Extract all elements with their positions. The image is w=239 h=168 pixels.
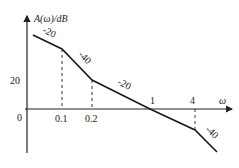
slope-label-1: -20 [41,24,58,40]
x-tick-4: 4 [190,95,195,106]
slope-label-4: -40 [204,124,221,141]
slope-label-2: -40 [77,49,94,66]
y-axis-label: A(ω)/dB [33,13,68,25]
y-tick-20: 20 [10,75,20,86]
origin-label: 0 [17,112,22,123]
magnitude-asymptote [33,35,217,152]
x-tick-1: 1 [150,95,155,106]
x-tick-0.1: 0.1 [55,113,68,124]
x-axis-label: ω [219,95,226,106]
slope-label-3: -20 [116,76,133,92]
bode-plot: A(ω)/dB ω 0 20 0.1 0.2 1 4 -20 -40 -20 -… [0,0,239,168]
x-tick-0.2: 0.2 [85,113,98,124]
